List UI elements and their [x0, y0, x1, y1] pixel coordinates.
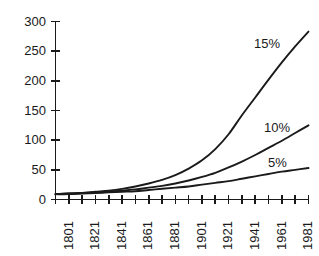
x-tick-label: 1821 [88, 221, 101, 250]
y-tick-label: 50 [6, 163, 46, 176]
x-tick-label: 1861 [141, 221, 154, 250]
growth-curves-chart: 050100150200250300 180118211841186118811… [0, 0, 319, 256]
series-label-5pct: 5% [268, 156, 287, 169]
x-tick-label: 1841 [115, 221, 128, 250]
series-label-15pct: 15% [254, 37, 280, 50]
y-tick-label: 100 [6, 133, 46, 146]
series-label-10pct: 10% [264, 121, 290, 134]
y-tick-label: 250 [6, 44, 46, 57]
x-tick-label: 1961 [275, 221, 288, 250]
x-tick-label: 1801 [62, 221, 75, 250]
y-tick-label: 150 [6, 104, 46, 117]
x-tick-label: 1881 [168, 221, 181, 250]
x-tick-label: 1981 [301, 221, 314, 250]
x-tick-label: 1921 [221, 221, 234, 250]
x-tick-label: 1901 [195, 221, 208, 250]
y-tick-label: 300 [6, 15, 46, 28]
y-tick-label: 0 [6, 193, 46, 206]
x-tick-label: 1941 [248, 221, 261, 250]
y-tick-label: 200 [6, 74, 46, 87]
